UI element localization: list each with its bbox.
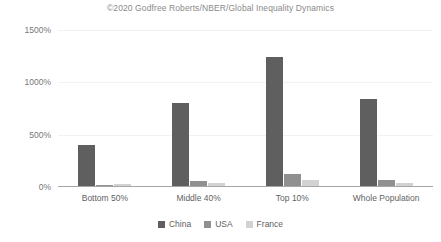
bar-slot xyxy=(208,30,225,186)
bar-slot xyxy=(78,30,95,186)
bar-france-3[interactable] xyxy=(396,183,413,186)
y-axis-tick-label: 0% xyxy=(39,182,51,192)
bar-usa-1[interactable] xyxy=(190,181,207,186)
x-axis-label: Middle 40% xyxy=(152,193,246,203)
legend-label: France xyxy=(257,219,283,229)
bar-group xyxy=(58,30,152,186)
bar-china-1[interactable] xyxy=(172,103,189,186)
bar-usa-3[interactable] xyxy=(378,180,395,186)
bar-group xyxy=(339,30,433,186)
legend-swatch-icon xyxy=(246,221,253,228)
legend-item-china[interactable]: China xyxy=(158,219,191,229)
bar-groups xyxy=(58,30,433,186)
bar-slot xyxy=(378,30,395,186)
legend-item-usa[interactable]: USA xyxy=(204,219,232,229)
legend-item-france[interactable]: France xyxy=(246,219,283,229)
x-axis-labels: Bottom 50%Middle 40%Top 10%Whole Populat… xyxy=(58,193,433,203)
bar-china-2[interactable] xyxy=(266,57,283,186)
y-axis-tick-label: 1500% xyxy=(25,25,51,35)
bar-china-3[interactable] xyxy=(360,99,377,186)
legend-swatch-icon xyxy=(204,221,211,228)
plot-area: 0%500%1000%1500% xyxy=(58,30,433,187)
bar-usa-2[interactable] xyxy=(284,174,301,186)
x-axis-label: Top 10% xyxy=(246,193,340,203)
bar-group xyxy=(152,30,246,186)
y-axis-tick-label: 500% xyxy=(29,130,51,140)
bar-slot xyxy=(284,30,301,186)
legend-swatch-icon xyxy=(158,221,165,228)
bar-slot xyxy=(114,30,131,186)
bar-slot xyxy=(360,30,377,186)
chart-title: ©2020 Godfree Roberts/NBER/Global Inequa… xyxy=(0,3,441,13)
y-axis-tick-label: 1000% xyxy=(25,77,51,87)
x-axis-label: Whole Population xyxy=(339,193,433,203)
bar-slot xyxy=(96,30,113,186)
chart-legend: ChinaUSAFrance xyxy=(0,219,441,229)
bar-slot xyxy=(302,30,319,186)
bar-france-1[interactable] xyxy=(208,183,225,186)
bar-france-0[interactable] xyxy=(114,184,131,186)
bar-chart: ©2020 Godfree Roberts/NBER/Global Inequa… xyxy=(0,0,441,242)
bar-slot xyxy=(172,30,189,186)
x-axis-label: Bottom 50% xyxy=(58,193,152,203)
bar-france-2[interactable] xyxy=(302,180,319,186)
legend-label: USA xyxy=(215,219,232,229)
legend-label: China xyxy=(169,219,191,229)
bar-group xyxy=(246,30,340,186)
bar-usa-0[interactable] xyxy=(96,185,113,186)
bar-slot xyxy=(266,30,283,186)
x-axis-line xyxy=(58,186,433,187)
bar-china-0[interactable] xyxy=(78,145,95,186)
bar-slot xyxy=(190,30,207,186)
bar-slot xyxy=(396,30,413,186)
